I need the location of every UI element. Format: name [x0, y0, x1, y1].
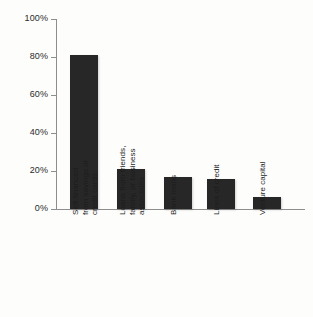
x-category-label-self-financed: Self-financed from savings or credit car… [71, 117, 100, 215]
bar-chart-figure: 0% 20% 40% 60% 80% 100% Self-financed fr… [0, 0, 313, 317]
y-tick-mark-40 [51, 133, 56, 134]
y-tick-label-80: 80% [30, 52, 48, 61]
x-category-label-lines-of-credit: Lines of credit [212, 117, 222, 215]
plot-area: 0% 20% 40% 60% 80% 100% Self-financed fr… [0, 0, 313, 317]
y-tick-mark-80 [51, 57, 56, 58]
x-category-label-loans-friends-family: Loans from friends, family, or business … [118, 117, 147, 215]
y-axis-line [56, 19, 57, 209]
y-tick-label-60: 60% [30, 90, 48, 99]
y-tick-mark-0 [51, 209, 56, 210]
y-tick-label-20: 20% [30, 166, 48, 175]
x-category-label-venture-capital: Venture capital [258, 117, 268, 215]
y-tick-mark-100 [51, 19, 56, 20]
y-tick-label-0: 0% [35, 204, 48, 213]
y-tick-label-40: 40% [30, 128, 48, 137]
x-category-label-bank-loans: Bank loans [169, 117, 179, 215]
y-tick-mark-20 [51, 171, 56, 172]
y-tick-label-100: 100% [25, 14, 48, 23]
y-tick-mark-60 [51, 95, 56, 96]
